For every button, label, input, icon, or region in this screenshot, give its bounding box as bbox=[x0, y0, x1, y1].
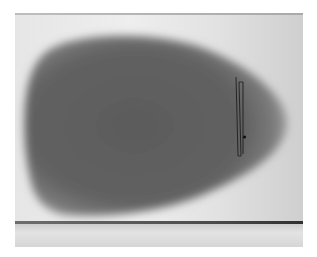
radiograph-image bbox=[15, 13, 303, 247]
lower-background-band bbox=[15, 223, 303, 247]
specimen-object bbox=[15, 13, 303, 247]
bottom-edge-line bbox=[15, 221, 303, 224]
